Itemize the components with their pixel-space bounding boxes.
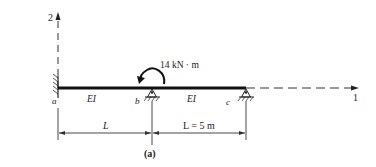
axis-2: 2 bbox=[48, 12, 61, 88]
axis-1-arrow-icon bbox=[351, 86, 359, 91]
dimension-right-label: L = 5 m bbox=[183, 120, 215, 131]
axis-2-arrow-icon bbox=[56, 12, 61, 20]
axis-1: 1 bbox=[246, 86, 359, 104]
stiffness-left-label: EI bbox=[86, 94, 97, 104]
dimension-left-label: L bbox=[102, 120, 109, 131]
support-b-label: b bbox=[135, 96, 140, 106]
axis-1-label: 1 bbox=[353, 92, 358, 103]
figure-caption: (a) bbox=[144, 148, 156, 160]
stiffness-right-label: EI bbox=[186, 94, 197, 104]
support-a-label: a bbox=[52, 96, 57, 106]
support-c-label: c bbox=[226, 97, 230, 107]
moment-label: 14 kN · m bbox=[160, 60, 199, 70]
pin-support-c-icon bbox=[238, 89, 254, 101]
dimension-lines bbox=[58, 101, 246, 145]
beam-diagram: 2 1 14 kN · m bbox=[0, 0, 376, 167]
axis-2-label: 2 bbox=[48, 12, 53, 23]
moment-arrow-icon bbox=[137, 68, 164, 84]
pin-support-b-icon bbox=[144, 89, 160, 101]
fixed-support-icon bbox=[53, 74, 58, 98]
